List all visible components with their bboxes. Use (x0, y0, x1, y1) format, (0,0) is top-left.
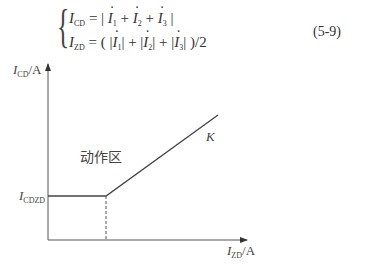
characteristic-diagram (0, 0, 375, 266)
x-axis-label: IZD/A (227, 243, 255, 260)
threshold-label: ICDZD (19, 188, 45, 205)
y-axis-label: ICD/A (13, 62, 41, 79)
restraint-curve (48, 115, 218, 196)
operating-region-label: 动作区 (80, 146, 122, 166)
slope-label: K (206, 129, 215, 145)
